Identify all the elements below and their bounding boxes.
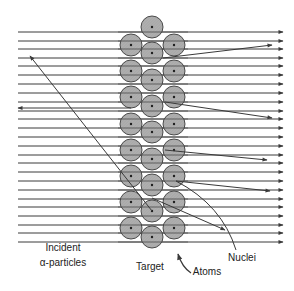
nucleus-dot: [173, 123, 175, 125]
nucleus-dot: [130, 123, 132, 125]
incident-label-line2: α-particles: [40, 257, 86, 268]
nuclei-label: Nuclei: [228, 252, 256, 263]
nucleus-dot: [151, 236, 153, 238]
nucleus-dot: [173, 70, 175, 72]
figure-caption-cutoff: [2, 284, 292, 291]
nucleus-dot: [130, 96, 132, 98]
nucleus-dot: [173, 175, 175, 177]
nucleus-dot: [151, 158, 153, 160]
nucleus-dot: [151, 184, 153, 186]
atoms-label: Atoms: [193, 266, 221, 277]
nucleus-dot: [151, 105, 153, 107]
nucleus-dot: [173, 96, 175, 98]
nucleus-dot: [130, 175, 132, 177]
nucleus-dot: [130, 44, 132, 46]
target-atoms: [120, 16, 185, 248]
nucleus-dot: [173, 201, 175, 203]
nucleus-dot: [151, 79, 153, 81]
nucleus-dot: [130, 201, 132, 203]
nucleus-dot: [130, 227, 132, 229]
atoms-pointer-arrow: [178, 254, 191, 273]
nucleus-dot: [130, 70, 132, 72]
incident-label-line1: Incident: [45, 242, 80, 253]
target-label: Target: [136, 261, 164, 272]
nucleus-dot: [130, 149, 132, 151]
nucleus-dot: [151, 131, 153, 133]
nucleus-dot: [173, 44, 175, 46]
nucleus-dot: [173, 227, 175, 229]
nucleus-dot: [151, 26, 153, 28]
rutherford-scattering-diagram: Incident α-particles Target Atoms Nuclei: [0, 0, 294, 291]
nucleus-dot: [151, 52, 153, 54]
